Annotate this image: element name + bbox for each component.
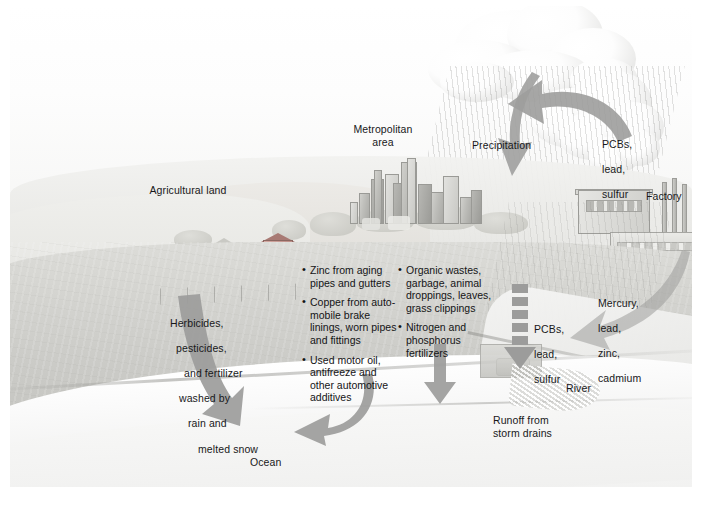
callout-discharge-line: lead, <box>598 322 678 335</box>
callout-deposition-line: PCBs, <box>534 323 594 336</box>
illustration-plate: Agricultural land Metropolitan area Prec… <box>10 6 692 487</box>
bullet-item: Zinc from aging pipes and gutters <box>302 264 398 289</box>
callout-industrial-discharge: Mercury, lead, zinc, cadmium <box>598 284 678 397</box>
deposition-arrow <box>504 284 538 370</box>
callout-agrunoff-line: washed by <box>170 392 290 405</box>
bullet-item: Organic wastes, garbage, animal dropping… <box>398 264 494 314</box>
callout-discharge-line: Mercury, <box>598 297 678 310</box>
figure-canvas: Agricultural land Metropolitan area Prec… <box>0 0 703 509</box>
callout-agrunoff-line: melted snow <box>170 443 290 456</box>
suburb-houses <box>362 218 380 230</box>
label-metropolitan-area: Metropolitan area <box>337 123 429 148</box>
callout-factory-emissions-line: PCBs, <box>602 138 662 151</box>
callout-discharge-line: zinc, <box>598 347 678 360</box>
label-river: River <box>566 382 616 395</box>
label-runoff-storm-drains: Runoff from storm drains <box>493 414 603 439</box>
callout-factory-emissions: PCBs, lead, sulfur <box>602 125 662 213</box>
callout-deposition-line: lead, <box>534 348 594 361</box>
label-precipitation: Precipitation <box>472 139 562 152</box>
callout-agrunoff-line: and fertilizer <box>170 367 290 380</box>
bullet-group-urban-metal-runoff: Zinc from aging pipes and gutters Copper… <box>302 264 398 411</box>
callout-factory-emissions-line: lead, <box>602 163 662 176</box>
callout-agrunoff-line: pesticides, <box>170 342 290 355</box>
bullet-item: Nitrogen and phosphorus fertilizers <box>398 321 494 359</box>
callout-factory-emissions-line: sulfur <box>602 188 662 201</box>
city-skyline <box>350 156 485 224</box>
bullet-item: Copper from auto- mobile brake linings, … <box>302 296 398 346</box>
callout-agrunoff-line: rain and <box>170 417 290 430</box>
callout-agricultural-runoff: Herbicides, pesticides, and fertilizer w… <box>170 304 290 468</box>
label-agricultural-land: Agricultural land <box>128 184 248 197</box>
bullet-item: Used motor oil, antifreeze and other aut… <box>302 354 398 404</box>
suburb-houses <box>388 216 410 230</box>
callout-agrunoff-line: Herbicides, <box>170 317 290 330</box>
label-ocean: Ocean <box>250 456 310 469</box>
bullet-group-organic-nutrient-runoff: Organic wastes, garbage, animal dropping… <box>398 264 494 366</box>
